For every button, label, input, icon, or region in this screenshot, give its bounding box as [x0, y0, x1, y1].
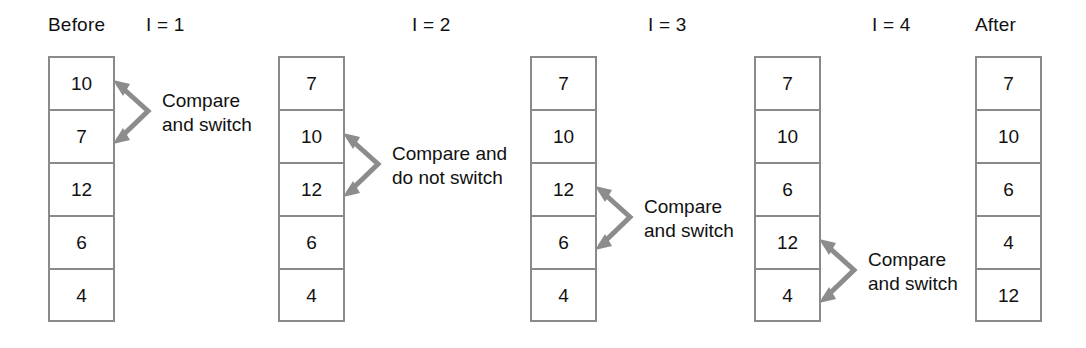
double-arrow-icon — [342, 131, 386, 201]
annotation-line-1: Compare — [644, 195, 734, 219]
bubble-sort-figure: Before I = 1 I = 2 I = 3 I = 4 After 10 … — [0, 0, 1086, 348]
array-cell: 7 — [532, 58, 595, 111]
array-cell: 4 — [50, 270, 113, 320]
annotation-compare-and-switch-3: Compare and switch — [818, 237, 988, 307]
header-i-4: I = 4 — [872, 14, 911, 36]
array-cell: 6 — [280, 217, 343, 270]
annotation-caption: Compare and do not switch — [392, 142, 507, 190]
annotation-line-1: Compare — [162, 89, 252, 113]
array-cell: 10 — [532, 111, 595, 164]
header-i-1: I = 1 — [146, 14, 185, 36]
array-cell: 4 — [532, 270, 595, 320]
annotation-line-2: and switch — [644, 219, 734, 243]
array-cell: 12 — [977, 270, 1040, 320]
header-i-3: I = 3 — [648, 14, 687, 36]
annotation-caption: Compare and switch — [644, 195, 734, 243]
after-stack: 7 10 6 4 12 — [975, 56, 1042, 322]
header-before: Before — [48, 14, 105, 36]
header-i-2: I = 2 — [412, 14, 451, 36]
annotation-compare-and-switch-2: Compare and switch — [594, 184, 764, 254]
array-cell: 6 — [977, 164, 1040, 217]
before-stack: 10 7 12 6 4 — [48, 56, 115, 322]
array-cell: 6 — [756, 164, 819, 217]
array-cell: 10 — [280, 111, 343, 164]
array-cell: 4 — [756, 270, 819, 320]
annotation-line-2: and switch — [162, 113, 252, 137]
array-cell: 10 — [50, 58, 113, 111]
array-cell: 12 — [280, 164, 343, 217]
array-cell: 7 — [280, 58, 343, 111]
pass3-stack: 7 10 6 12 4 — [754, 56, 821, 322]
array-cell: 12 — [756, 217, 819, 270]
double-arrow-icon — [818, 237, 862, 307]
annotation-compare-and-switch-1: Compare and switch — [112, 78, 282, 148]
double-arrow-icon — [594, 184, 638, 254]
array-cell: 4 — [977, 217, 1040, 270]
annotation-line-1: Compare — [868, 248, 958, 272]
array-cell: 7 — [977, 58, 1040, 111]
array-cell: 7 — [756, 58, 819, 111]
header-after: After — [975, 14, 1016, 36]
array-cell: 6 — [50, 217, 113, 270]
annotation-line-2: do not switch — [392, 166, 507, 190]
array-cell: 12 — [532, 164, 595, 217]
array-cell: 4 — [280, 270, 343, 320]
annotation-caption: Compare and switch — [162, 89, 252, 137]
annotation-line-2: and switch — [868, 272, 958, 296]
double-arrow-icon — [112, 78, 156, 148]
array-cell: 12 — [50, 164, 113, 217]
array-cell: 7 — [50, 111, 113, 164]
annotation-caption: Compare and switch — [868, 248, 958, 296]
array-cell: 10 — [977, 111, 1040, 164]
pass1-stack: 7 10 12 6 4 — [278, 56, 345, 322]
annotation-compare-and-do-not-switch: Compare and do not switch — [342, 131, 542, 201]
array-cell: 6 — [532, 217, 595, 270]
pass2-stack: 7 10 12 6 4 — [530, 56, 597, 322]
annotation-line-1: Compare and — [392, 142, 507, 166]
array-cell: 10 — [756, 111, 819, 164]
